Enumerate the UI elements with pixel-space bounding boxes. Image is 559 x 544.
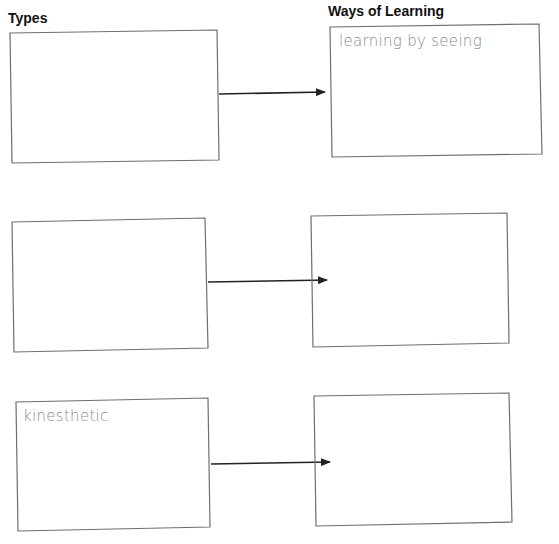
way-entry-2[interactable]: [320, 222, 500, 242]
arrow-1: [219, 92, 325, 94]
type-entry-2[interactable]: [20, 228, 200, 248]
type-entry-3[interactable]: kinesthetic: [23, 407, 203, 427]
way-entry-1[interactable]: learning by seeing: [339, 32, 534, 52]
arrow-3: [211, 462, 330, 464]
diagram-canvas: [0, 0, 559, 544]
way-entry-3[interactable]: [323, 402, 503, 422]
type-entry-1[interactable]: [18, 38, 208, 58]
arrow-2: [208, 280, 327, 282]
